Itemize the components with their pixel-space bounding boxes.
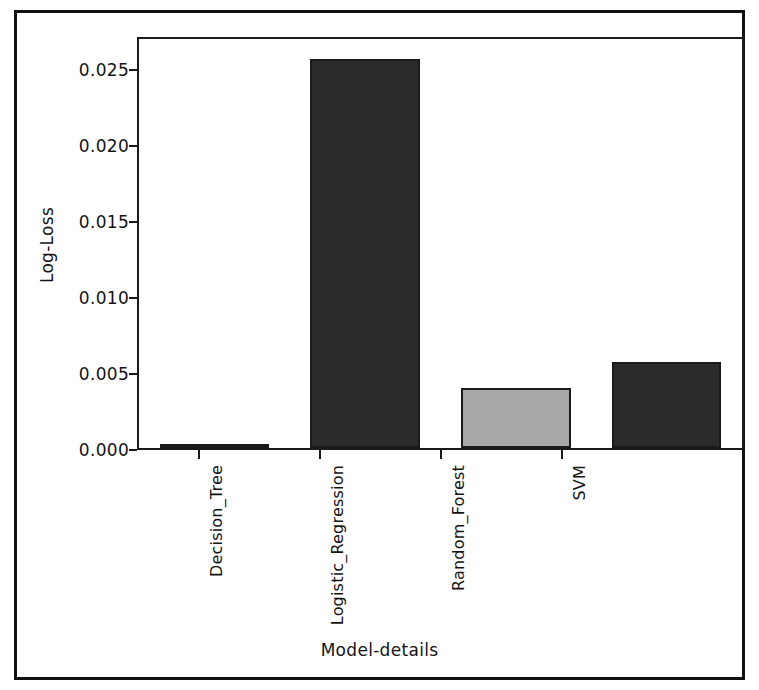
x-tick-mark-0 xyxy=(198,450,200,459)
bar-random-forest[interactable] xyxy=(461,388,571,448)
x-tick-mark-1 xyxy=(319,450,321,459)
y-tick-label-4: 0.020 xyxy=(79,136,129,156)
plot-area xyxy=(137,37,744,450)
figure-canvas: Log-Loss 0.000 0.005 0.010 0.015 0.020 0… xyxy=(0,0,759,690)
y-axis-tick-labels: 0.000 0.005 0.010 0.015 0.020 0.025 xyxy=(17,37,129,450)
y-tick-mark-1 xyxy=(129,373,137,375)
y-tick-mark-2 xyxy=(129,297,137,299)
y-tick-label-1: 0.005 xyxy=(79,364,129,384)
y-tick-mark-0 xyxy=(129,449,137,451)
x-tick-mark-2 xyxy=(440,450,442,459)
bars-layer xyxy=(139,39,742,448)
x-tick-label-random-forest: Random_Forest xyxy=(449,465,468,591)
y-tick-mark-3 xyxy=(129,221,137,223)
y-tick-label-5: 0.025 xyxy=(79,60,129,80)
y-tick-label-0: 0.000 xyxy=(79,440,129,460)
bar-decision-tree[interactable] xyxy=(160,444,270,448)
figure-outer-border: Log-Loss 0.000 0.005 0.010 0.015 0.020 0… xyxy=(14,10,745,680)
x-tick-mark-3 xyxy=(561,450,563,459)
bar-svm[interactable] xyxy=(612,362,722,448)
bar-logistic-regression[interactable] xyxy=(310,59,420,448)
y-tick-label-3: 0.015 xyxy=(79,212,129,232)
y-tick-mark-5 xyxy=(129,69,137,71)
x-tick-label-svm: SVM xyxy=(570,465,589,501)
x-axis-title: Model-details xyxy=(0,640,759,660)
x-tick-label-logistic-regression: Logistic_Regression xyxy=(328,465,347,625)
y-tick-label-2: 0.010 xyxy=(79,288,129,308)
y-tick-mark-4 xyxy=(129,145,137,147)
x-tick-label-decision-tree: Decision_Tree xyxy=(207,465,226,577)
